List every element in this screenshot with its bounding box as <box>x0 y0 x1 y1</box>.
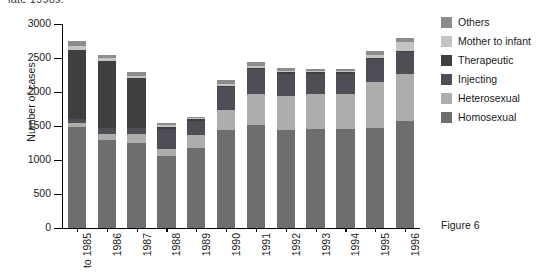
bar-segment <box>336 129 354 228</box>
bar-segment <box>157 129 175 149</box>
bar-segment <box>98 61 116 128</box>
x-axis-line <box>62 228 420 229</box>
bar-segment <box>396 42 414 50</box>
bar-segment <box>306 74 324 94</box>
bar-segment <box>127 134 145 143</box>
x-tick <box>256 228 257 232</box>
y-tick-label: 1500 <box>28 119 51 131</box>
bar-segment <box>247 69 265 94</box>
legend-label: Mother to infant <box>458 35 531 47</box>
x-tick <box>137 228 138 232</box>
x-tick-label: 1993 <box>320 233 332 256</box>
x-tick <box>77 228 78 232</box>
bar-segment <box>277 130 295 228</box>
x-tick <box>107 228 108 232</box>
bar-segment <box>98 140 116 228</box>
bar-stack[interactable] <box>366 51 384 228</box>
bar-segment <box>396 52 414 74</box>
legend-item[interactable]: Mother to infant <box>441 32 557 50</box>
y-tick-label: 1000 <box>28 153 51 165</box>
legend-item[interactable]: Injecting <box>441 70 557 88</box>
y-tick: 500 <box>54 194 62 195</box>
x-tick-label: 1991 <box>260 233 272 256</box>
x-tick-label: to 1985 <box>81 233 93 268</box>
legend-label: Others <box>458 16 490 28</box>
figure-container: late 1990s. Number of cases 050010001500… <box>0 0 557 277</box>
bar-segment <box>306 129 324 228</box>
bar-segment <box>217 110 235 130</box>
bar-stack[interactable] <box>127 72 145 228</box>
bar-segment <box>277 96 295 130</box>
bar-stack[interactable] <box>277 68 295 228</box>
bar-segment <box>366 82 384 128</box>
x-tick <box>375 228 376 232</box>
legend-swatch-icon <box>441 36 452 47</box>
y-tick-label: 2500 <box>28 51 51 63</box>
x-tick <box>226 228 227 232</box>
legend-item[interactable]: Heterosexual <box>441 89 557 107</box>
legend-label: Homosexual <box>458 111 516 123</box>
x-tick <box>166 228 167 232</box>
y-tick: 1500 <box>54 126 62 127</box>
x-tick <box>405 228 406 232</box>
chart-legend: OthersMother to infantTherapeuticInjecti… <box>441 13 557 127</box>
legend-item[interactable]: Homosexual <box>441 108 557 126</box>
bar-segment <box>247 94 265 125</box>
y-tick: 2000 <box>54 92 62 93</box>
bar-stack[interactable] <box>217 80 235 228</box>
y-tick: 1000 <box>54 160 62 161</box>
bar-stack[interactable] <box>98 55 116 228</box>
legend-item[interactable]: Others <box>441 13 557 31</box>
y-tick-label: 3000 <box>28 17 51 29</box>
bar-stack[interactable] <box>187 117 205 228</box>
bar-segment <box>217 87 235 110</box>
bar-stack[interactable] <box>247 62 265 228</box>
x-tick-label: 1996 <box>409 233 421 256</box>
bar-segment <box>68 127 86 228</box>
y-tick-label: 2000 <box>28 85 51 97</box>
bar-stack[interactable] <box>157 123 175 228</box>
bar-stack[interactable] <box>336 69 354 228</box>
bar-segment <box>127 143 145 228</box>
legend-swatch-icon <box>441 74 452 85</box>
bar-segment <box>336 94 354 129</box>
x-tick-label: 1988 <box>170 233 182 256</box>
legend-label: Injecting <box>458 73 497 85</box>
bar-segment <box>187 121 205 135</box>
y-tick: 3000 <box>54 24 62 25</box>
x-tick-label: 1994 <box>349 233 361 256</box>
x-tick-label: 1989 <box>200 233 212 256</box>
bar-segment <box>68 50 86 119</box>
bar-segment <box>187 135 205 149</box>
bar-segment <box>187 148 205 228</box>
bar-segment <box>127 78 145 128</box>
x-tick-label: 1987 <box>141 233 153 256</box>
legend-label: Therapeutic <box>458 54 513 66</box>
x-tick <box>286 228 287 232</box>
x-tick-label: 1986 <box>111 233 123 256</box>
bar-segment <box>366 128 384 228</box>
legend-swatch-icon <box>441 93 452 104</box>
bar-segment <box>247 125 265 228</box>
bar-stack[interactable] <box>396 38 414 228</box>
bar-segment <box>336 74 354 94</box>
figure-caption: Figure 6 <box>441 219 480 231</box>
y-tick: 2500 <box>54 58 62 59</box>
bar-segment <box>306 94 324 129</box>
x-tick <box>345 228 346 232</box>
legend-swatch-icon <box>441 112 452 123</box>
x-tick-label: 1990 <box>230 233 242 256</box>
y-tick-label: 0 <box>45 221 51 233</box>
bar-stack[interactable] <box>306 69 324 228</box>
bar-segment <box>366 59 384 81</box>
bar-stack[interactable] <box>68 41 86 228</box>
bar-segment <box>396 121 414 228</box>
y-tick: 0 <box>54 228 62 229</box>
bar-segment <box>277 74 295 96</box>
legend-item[interactable]: Therapeutic <box>441 51 557 69</box>
x-tick <box>316 228 317 232</box>
x-tick-label: 1992 <box>290 233 302 256</box>
bar-series-group <box>62 24 420 228</box>
x-tick-label: 1995 <box>379 233 391 256</box>
x-tick <box>196 228 197 232</box>
